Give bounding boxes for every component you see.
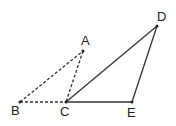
point-E-dot — [131, 101, 134, 104]
label-B: B — [11, 103, 20, 118]
label-C: C — [60, 104, 69, 119]
segment-DE — [132, 26, 157, 102]
segment-BA — [20, 51, 83, 102]
label-E: E — [127, 105, 136, 120]
segment-CD — [66, 26, 157, 102]
point-D-dot — [156, 25, 159, 28]
label-A: A — [81, 33, 90, 48]
geometry-diagram: A B C D E — [0, 0, 176, 126]
point-A-dot — [82, 50, 85, 53]
diagram-svg: A B C D E — [0, 0, 176, 126]
label-D: D — [157, 9, 166, 24]
